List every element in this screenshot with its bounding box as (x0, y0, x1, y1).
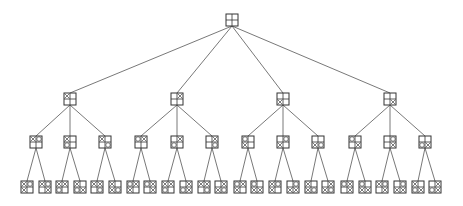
board-node (135, 136, 147, 148)
tree-edges (27, 26, 435, 181)
tree-edge (390, 105, 425, 136)
tree-edge (70, 148, 80, 181)
board-node (127, 181, 139, 193)
tree-edge (390, 148, 400, 181)
board-node (64, 93, 76, 105)
board-node (21, 181, 33, 193)
game-tree-diagram (0, 0, 463, 206)
board-node (64, 136, 76, 148)
board-node (287, 181, 299, 193)
board-node (322, 181, 334, 193)
board-node (376, 181, 388, 193)
board-node (206, 136, 218, 148)
board-node (412, 181, 424, 193)
tree-edge (141, 148, 150, 181)
tree-edge (62, 148, 70, 181)
tree-edge (97, 148, 105, 181)
board-node (269, 181, 281, 193)
board-node (198, 181, 210, 193)
tree-edge (105, 148, 115, 181)
tree-edge (248, 105, 283, 136)
board-node (99, 136, 111, 148)
board-node (429, 181, 441, 193)
board-node (305, 181, 317, 193)
tree-edge (27, 148, 36, 181)
board-node (312, 136, 324, 148)
board-node (394, 181, 406, 193)
board-node (226, 14, 238, 26)
tree-edge (355, 105, 390, 136)
tree-edge (232, 26, 283, 93)
board-node (39, 181, 51, 193)
tree-edge (177, 26, 232, 93)
tree-edge (212, 148, 221, 181)
board-node (251, 181, 263, 193)
board-node (91, 181, 103, 193)
board-node (359, 181, 371, 193)
board-node (109, 181, 121, 193)
tree-edge (355, 148, 365, 181)
tree-edge (133, 148, 141, 181)
board-node (277, 136, 289, 148)
tree-edge (248, 148, 257, 181)
board-node (242, 136, 254, 148)
board-node (180, 181, 192, 193)
tree-edge (204, 148, 212, 181)
board-node (277, 93, 289, 105)
board-node (56, 181, 68, 193)
tree-edge (36, 105, 70, 136)
board-node (234, 181, 246, 193)
tree-edge (232, 26, 390, 93)
board-node (74, 181, 86, 193)
tree-edge (382, 148, 390, 181)
tree-edge (141, 105, 177, 136)
board-node (384, 93, 396, 105)
board-node (171, 136, 183, 148)
tree-edge (311, 148, 318, 181)
board-node (419, 136, 431, 148)
tree-edge (70, 26, 232, 93)
board-node (30, 136, 42, 148)
board-node (215, 181, 227, 193)
tree-edge (347, 148, 355, 181)
board-node (349, 136, 361, 148)
tree-edge (425, 148, 435, 181)
tree-edge (168, 148, 177, 181)
tree-edge (418, 148, 425, 181)
board-node (162, 181, 174, 193)
board-node (384, 136, 396, 148)
board-node (171, 93, 183, 105)
tree-edge (177, 105, 212, 136)
tree-edge (283, 105, 318, 136)
tree-edge (318, 148, 328, 181)
tree-edge (283, 148, 293, 181)
board-node (341, 181, 353, 193)
tree-edge (70, 105, 105, 136)
tree-nodes (21, 14, 441, 193)
tree-edge (240, 148, 248, 181)
tree-edge (177, 148, 186, 181)
tree-edge (36, 148, 45, 181)
board-node (144, 181, 156, 193)
tree-edge (275, 148, 283, 181)
